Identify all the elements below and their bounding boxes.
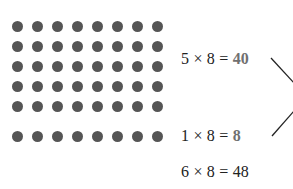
combining-bracket-lines	[0, 0, 293, 189]
